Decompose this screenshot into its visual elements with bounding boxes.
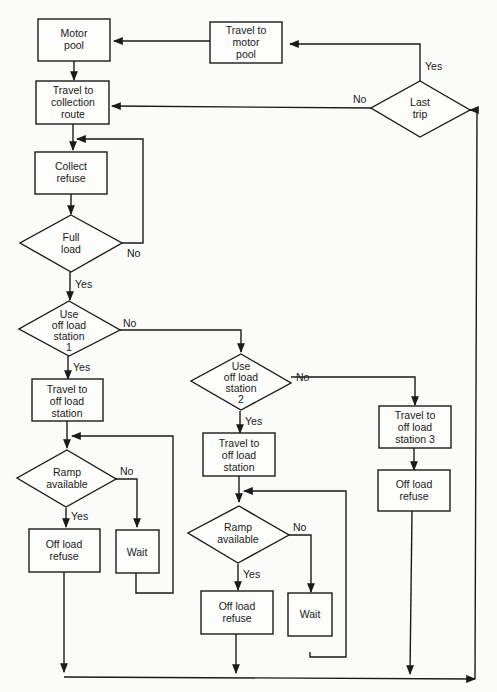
node-full-load: Fullload (20, 215, 122, 272)
node-travel-to-station-3: Travel tooff loadstation 3 (379, 406, 451, 448)
edge-label-station1-yes: Yes (73, 361, 90, 373)
node-use-station-2: Useoff loadstation2 (191, 354, 291, 410)
svg-text:Travel tooff loadstation: Travel tooff loadstation (47, 383, 88, 419)
svg-text:Lasttrip: Lasttrip (410, 96, 430, 120)
arrow-bottom-return (64, 677, 475, 679)
edge-label-station2-no: No (296, 371, 310, 383)
svg-text:Wait: Wait (300, 608, 321, 620)
node-off-load-refuse-2: Off loadrefuse (201, 591, 273, 634)
node-travel-to-station-2: Travel tooff loadstation (203, 433, 275, 476)
node-wait-1: Wait (116, 530, 159, 573)
svg-text:Wait: Wait (127, 546, 148, 558)
svg-text:Off loadrefuse: Off loadrefuse (46, 538, 83, 562)
edge-label-station1-no: No (123, 317, 137, 329)
edge-label-ramp1-yes: Yes (71, 510, 88, 522)
node-ramp-available-2: Rampavailable (188, 506, 289, 563)
node-travel-to-station-1: Travel tooff loadstation (32, 379, 103, 421)
refuse-collection-flowchart: Motorpool Travel tomotorpool Lasttrip Ye… (0, 0, 497, 692)
arrow-station1-no (120, 330, 241, 352)
node-use-station-1: Useoff loadstation1 (19, 301, 120, 356)
edge-label-ramp2-yes: Yes (243, 568, 260, 580)
node-off-load-refuse-1: Off loadrefuse (29, 529, 100, 572)
node-wait-2: Wait (288, 593, 332, 636)
svg-text:Travel tooff loadstation 3: Travel tooff loadstation 3 (395, 409, 436, 445)
node-ramp-available-1: Rampavailable (17, 450, 116, 507)
edge-label-last-trip-yes: Yes (425, 60, 442, 72)
edge-label-station2-yes: Yes (245, 415, 262, 427)
node-collect-refuse: Collectrefuse (35, 152, 107, 194)
arrow-ramp1-no (116, 479, 137, 527)
node-travel-to-collection-route: Travel tocollectionroute (36, 81, 109, 124)
arrow-offload3-down (410, 511, 412, 674)
svg-text:Off loadrefuse: Off loadrefuse (219, 600, 256, 624)
svg-text:Fullload: Fullload (61, 231, 81, 255)
svg-text:Travel tooff loadstation: Travel tooff loadstation (219, 437, 260, 473)
node-motor-pool: Motorpool (38, 19, 110, 61)
arrow-station2-no (291, 377, 415, 405)
svg-text:Motorpool: Motorpool (61, 27, 88, 51)
edge-label-full-load-yes: Yes (75, 278, 92, 290)
arrow-ramp2-no (289, 535, 311, 592)
node-off-load-refuse-3: Off loadrefuse (378, 470, 450, 511)
arrow-last-trip-no (112, 106, 371, 108)
connectors (64, 41, 477, 679)
svg-text:Collectrefuse: Collectrefuse (55, 160, 87, 184)
svg-text:Off loadrefuse: Off loadrefuse (396, 478, 433, 502)
edge-label-last-trip-no: No (353, 93, 367, 105)
edge-label-ramp1-no: No (120, 465, 134, 477)
edge-label-full-load-no: No (127, 247, 141, 259)
arrow-last-trip-yes (290, 44, 420, 81)
node-last-trip: Lasttrip (371, 81, 470, 137)
node-travel-to-motor-pool: Travel tomotorpool (210, 22, 282, 63)
arrow-return-to-last-trip (470, 110, 477, 679)
edge-label-ramp2-no: No (293, 521, 307, 533)
